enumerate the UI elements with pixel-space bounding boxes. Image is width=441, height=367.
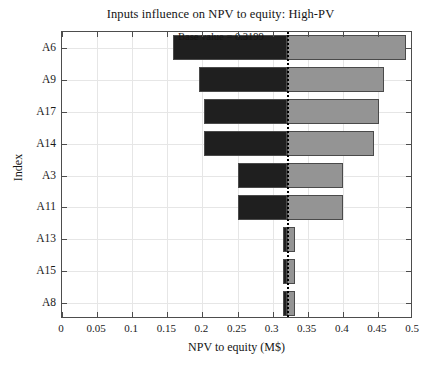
bar-row[interactable]: [62, 131, 411, 156]
bar-row[interactable]: [62, 99, 411, 124]
x-tick-mark: [62, 32, 63, 37]
y-tick-mark: [62, 112, 67, 113]
x-tick-label: 0.3: [265, 322, 279, 334]
x-tick-label: 0.35: [297, 322, 316, 334]
bar-segment-high-a6[interactable]: [287, 35, 406, 60]
x-tick-mark: [167, 32, 168, 37]
x-tick-mark: [273, 32, 274, 37]
plot-area: Base value = 0.3199: [61, 31, 412, 318]
base-value-line: [287, 32, 289, 317]
bar-row[interactable]: [62, 67, 411, 92]
x-tick-mark: [378, 312, 379, 317]
y-tick-mark: [62, 239, 67, 240]
y-tick-label-a8: A8: [42, 296, 56, 308]
y-tick-mark: [62, 176, 67, 177]
y-tick-mark: [406, 80, 411, 81]
bar-row[interactable]: [62, 195, 411, 220]
base-value-label: Base value = 0.3199: [178, 31, 264, 42]
bar-segment-high-a17[interactable]: [287, 99, 380, 124]
x-axis-label: NPV to equity (M$): [61, 340, 412, 355]
x-tick-label: 0.25: [227, 322, 246, 334]
y-tick-mark: [62, 144, 67, 145]
bar-segment-low-a3[interactable]: [238, 163, 286, 188]
y-tick-label-a6: A6: [42, 41, 56, 53]
chart-title: Inputs influence on NPV to equity: High-…: [0, 7, 441, 22]
bar-segment-high-a11[interactable]: [287, 195, 343, 220]
y-tick-mark: [62, 303, 67, 304]
y-tick-mark: [406, 112, 411, 113]
bar-row[interactable]: [62, 163, 411, 188]
x-tick-mark: [132, 32, 133, 37]
x-tick-mark: [238, 32, 239, 37]
x-tick-label: 0: [58, 322, 64, 334]
y-tick-mark: [406, 48, 411, 49]
bar-segment-low-a9[interactable]: [199, 67, 287, 92]
x-tick-label: 0.1: [124, 322, 138, 334]
x-tick-label: 0.45: [367, 322, 386, 334]
y-tick-label-a14: A14: [36, 137, 56, 149]
x-tick-mark: [308, 312, 309, 317]
bar-segment-high-a9[interactable]: [287, 67, 385, 92]
bar-segment-high-a14[interactable]: [287, 131, 375, 156]
y-tick-mark: [406, 144, 411, 145]
y-tick-mark: [62, 271, 67, 272]
x-tick-mark: [132, 312, 133, 317]
x-tick-mark: [202, 312, 203, 317]
x-tick-label: 0.2: [195, 322, 209, 334]
y-tick-mark: [406, 271, 411, 272]
bar-segment-low-a14[interactable]: [204, 131, 287, 156]
y-tick-label-a17: A17: [36, 105, 56, 117]
bar-segment-low-a17[interactable]: [204, 99, 287, 124]
y-tick-mark: [406, 239, 411, 240]
y-tick-mark: [406, 176, 411, 177]
x-tick-mark: [62, 312, 63, 317]
x-tick-mark: [202, 32, 203, 37]
x-tick-label: 0.5: [405, 322, 419, 334]
y-tick-mark: [406, 207, 411, 208]
x-tick-mark: [343, 32, 344, 37]
x-tick-mark: [238, 312, 239, 317]
bar-row[interactable]: [62, 227, 411, 252]
x-tick-label: 0.05: [86, 322, 105, 334]
y-tick-mark: [62, 207, 67, 208]
tornado-chart-figure: Inputs influence on NPV to equity: High-…: [0, 0, 441, 367]
x-tick-mark: [343, 312, 344, 317]
bar-segment-low-a11[interactable]: [238, 195, 286, 220]
y-tick-label-a13: A13: [36, 232, 56, 244]
x-tick-mark: [167, 312, 168, 317]
y-axis-label: Index: [11, 118, 26, 218]
x-tick-label: 0.15: [157, 322, 176, 334]
x-tick-mark: [273, 312, 274, 317]
x-tick-mark: [378, 32, 379, 37]
bar-row[interactable]: [62, 291, 411, 316]
y-tick-mark: [406, 303, 411, 304]
y-tick-label-a15: A15: [36, 264, 56, 276]
x-tick-mark: [308, 32, 309, 37]
bar-row[interactable]: [62, 259, 411, 284]
x-tick-mark: [97, 312, 98, 317]
y-tick-mark: [62, 80, 67, 81]
x-tick-mark: [97, 32, 98, 37]
y-tick-mark: [62, 48, 67, 49]
y-axis-tick-labels: A6A9A17A14A3A11A13A15A8: [0, 0, 56, 367]
y-tick-label-a3: A3: [42, 169, 56, 181]
bar-segment-high-a3[interactable]: [287, 163, 343, 188]
y-tick-label-a9: A9: [42, 73, 56, 85]
x-tick-label: 0.4: [335, 322, 349, 334]
y-tick-label-a11: A11: [37, 200, 56, 212]
